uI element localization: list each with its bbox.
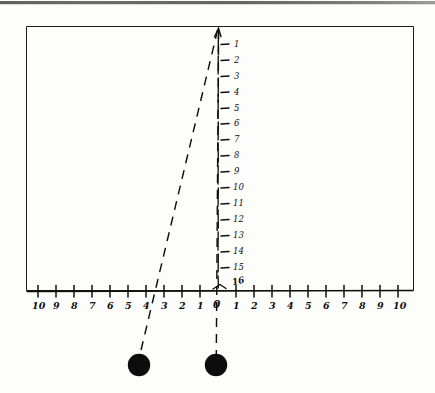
- vertical-tick-label-3: 3: [234, 72, 240, 81]
- vertical-tick-label-14: 14: [233, 247, 244, 256]
- right-bob: [205, 354, 227, 376]
- x-tick-label-right-5: 5: [305, 301, 312, 311]
- x-tick-label-left-1: 1: [197, 301, 204, 311]
- diagram-strokes: [0, 0, 435, 393]
- x-tick-label-left-9: 9: [53, 301, 60, 311]
- x-tick-label-origin: 0: [213, 299, 220, 310]
- x-tick-label-left-7: 7: [89, 301, 96, 311]
- left-bob: [128, 354, 150, 376]
- vertical-tick-label-10: 10: [233, 183, 244, 192]
- vertical-tick-label-2: 2: [234, 56, 240, 65]
- vertical-tick-label-8: 8: [234, 151, 240, 160]
- x-tick-label-right-3: 3: [269, 301, 276, 311]
- x-tick-label-right-1: 1: [233, 301, 240, 311]
- x-tick-label-right-6: 6: [323, 301, 330, 311]
- vertical-tick-label-11: 11: [233, 199, 244, 208]
- vertical-tick-label-1: 1: [234, 40, 240, 49]
- x-tick-label-right-9: 9: [377, 301, 384, 311]
- x-tick-label-right-7: 7: [341, 301, 348, 311]
- x-tick-label-left-4: 4: [143, 301, 150, 311]
- figure-sheet: 1 2 3 4 5 6 7 8 9 10 11 12 13 14 15 16 1…: [0, 0, 435, 393]
- pendulum-bobs: [128, 354, 227, 376]
- vertical-tick-label-12: 12: [233, 215, 244, 224]
- vertical-tick-label-5: 5: [234, 104, 240, 113]
- x-tick-label-left-5: 5: [125, 301, 132, 311]
- x-tick-label-left-3: 3: [161, 301, 168, 311]
- vertical-tick-label-6: 6: [234, 119, 240, 128]
- vertical-tick-label-15: 15: [233, 263, 244, 272]
- x-tick-label-right-8: 8: [359, 301, 366, 311]
- x-tick-label-left-2: 2: [179, 301, 186, 311]
- x-tick-label-left-8: 8: [71, 301, 78, 311]
- sixteen-caret-icon: [213, 285, 226, 290]
- vertical-scale-ticks: [221, 44, 229, 268]
- vertical-tick-label-7: 7: [234, 135, 240, 144]
- x-tick-label-left-10: 10: [32, 301, 46, 311]
- vertical-tick-label-13: 13: [233, 231, 244, 240]
- x-tick-label-right-10: 10: [393, 301, 407, 311]
- vertical-tick-label-9: 9: [234, 167, 240, 176]
- vertical-tick-label-4: 4: [234, 88, 240, 97]
- x-tick-label-left-6: 6: [107, 301, 114, 311]
- horizontal-axis-line: [27, 291, 413, 292]
- x-tick-label-right-2: 2: [251, 301, 258, 311]
- x-tick-label-right-4: 4: [287, 301, 294, 311]
- pivot-caret-icon: [215, 28, 222, 37]
